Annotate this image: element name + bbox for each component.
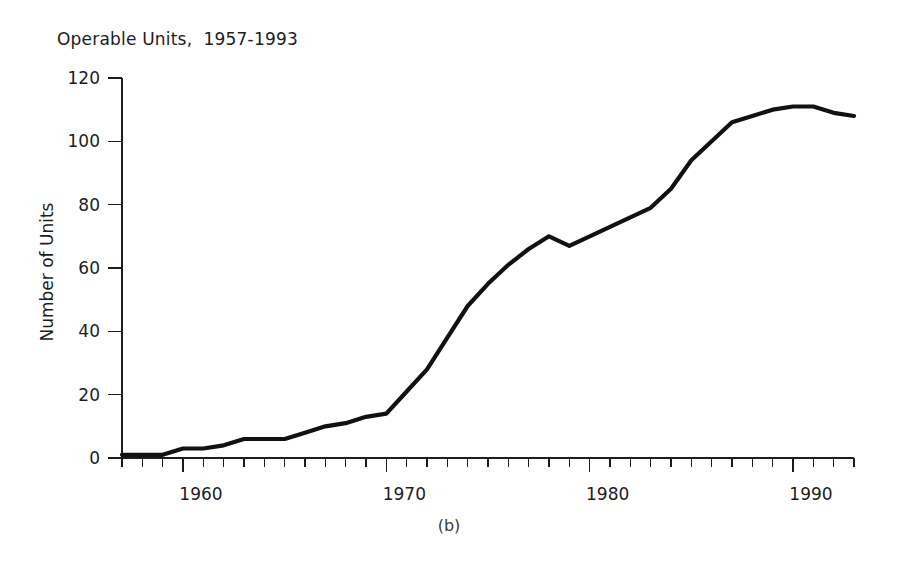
y-tick-label-group: 020406080100120 [68,68,100,468]
x-tick-label: 1970 [383,484,426,504]
y-tick-marks [108,78,122,458]
line-chart-plot: 020406080100120 1960197019801990 [0,0,898,576]
y-tick-label: 0 [89,448,100,468]
x-tick-label-group: 1960197019801990 [179,484,832,504]
x-tick-marks [122,458,854,472]
y-tick-label: 80 [78,195,100,215]
x-tick-label: 1980 [586,484,629,504]
series-line-operable-units [122,107,854,455]
x-tick-label: 1960 [179,484,222,504]
y-tick-label: 120 [68,68,100,88]
axis-frame [122,78,854,458]
x-tick-label: 1990 [789,484,832,504]
figure-caption: (b) [0,516,898,535]
y-tick-label: 40 [78,321,100,341]
y-tick-label: 100 [68,131,100,151]
figure-container: Operable Units, 1957-1993 Number of Unit… [0,0,898,576]
y-tick-label: 20 [78,385,100,405]
y-tick-label: 60 [78,258,100,278]
